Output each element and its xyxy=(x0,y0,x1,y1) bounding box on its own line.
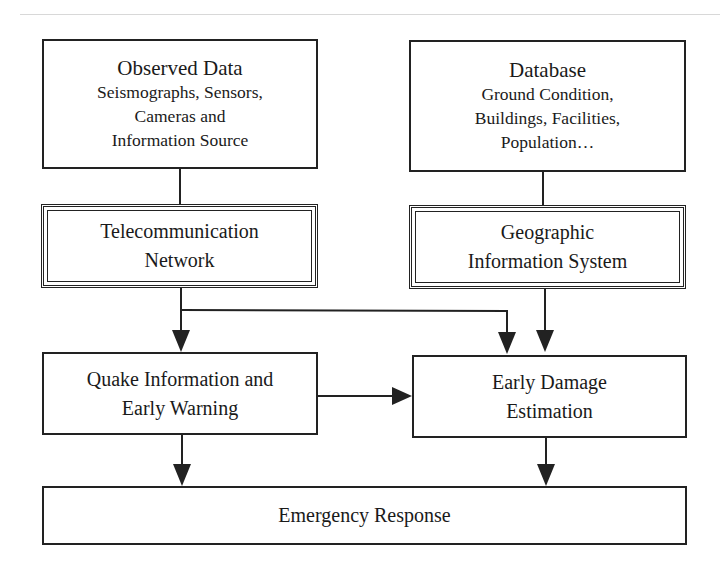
node-geographic-information-system: Geographic Information System xyxy=(409,205,686,289)
node-early-damage-estimation: Early Damage Estimation xyxy=(412,355,687,438)
node-database: Database Ground Condition, Buildings, Fa… xyxy=(409,40,686,172)
node-quake-information: Quake Information and Early Warning xyxy=(42,352,318,435)
node-observed-data: Observed Data Seismographs, Sensors, Cam… xyxy=(42,39,318,169)
node-telecommunication-network: Telecommunication Network xyxy=(41,204,318,288)
node-emergency-response: Emergency Response xyxy=(42,486,687,545)
node-title: Database xyxy=(509,58,586,82)
node-title: Observed Data xyxy=(117,56,242,80)
arrowhead-down-icon xyxy=(537,464,555,486)
arrowhead-down-icon xyxy=(536,330,554,352)
arrowhead-down-icon xyxy=(173,464,191,486)
arrowhead-down-icon xyxy=(498,332,516,354)
arrowhead-right-icon xyxy=(392,387,412,405)
arrowhead-down-icon xyxy=(172,330,190,352)
